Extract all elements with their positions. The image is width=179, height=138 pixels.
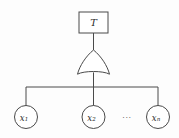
basic-event-subscript-3: n <box>157 117 161 123</box>
basic-event-subscript-2: 2 <box>91 117 96 123</box>
basic-event-subscript-1: 1 <box>25 117 29 123</box>
fault-tree-diagram: T x1 x2 xn ··· <box>0 0 179 138</box>
diagram-canvas: T x1 x2 xn ··· <box>0 0 179 138</box>
ellipsis-label: ··· <box>122 113 131 122</box>
or-gate-shape <box>78 50 110 74</box>
